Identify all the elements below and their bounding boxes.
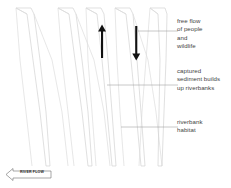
river-braid-1b [34, 14, 68, 166]
river-braid-4 [115, 8, 124, 166]
annotation-riverbank-habitat: riverbank habitat [177, 118, 231, 135]
river-channels [16, 8, 167, 166]
annotation-captured-sediment: captured sediment builds up riverbanks [177, 67, 231, 92]
river-braid-5 [139, 8, 150, 166]
river-braid-3 [86, 8, 96, 166]
river-channel-5 [150, 8, 167, 166]
river-flow-banner-label: RIVER FLOW [15, 170, 49, 174]
upstream-arrow [98, 25, 106, 59]
annotation-free-flow: free flow of people and wildlife [177, 17, 231, 51]
diagram-canvas: free flow of people and wildlife capture… [0, 0, 231, 188]
river-channel-1 [16, 8, 50, 166]
leader-lines [107, 31, 178, 127]
